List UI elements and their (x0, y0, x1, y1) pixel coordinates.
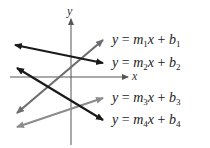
equation-3: y = m3x + b3 (112, 91, 180, 105)
eq-x: x (148, 112, 154, 127)
eq-plus: + (157, 112, 165, 127)
eq-slope: m (133, 32, 143, 47)
equation-1: y = m1x + b1 (112, 33, 180, 47)
eq-slope: m (133, 112, 143, 127)
y-axis-label: y (67, 5, 72, 17)
eq-lhs: y (112, 90, 118, 105)
eq-intercept: b (169, 55, 176, 70)
eq-lhs: y (112, 55, 118, 70)
eq-plus: + (157, 55, 165, 70)
eq-lhs: y (112, 32, 118, 47)
eq-intercept-subscript: 2 (176, 62, 181, 72)
equation-4: y = m4x + b4 (112, 113, 180, 127)
eq-slope: m (133, 90, 143, 105)
eq-plus: + (157, 90, 165, 105)
eq-intercept-subscript: 3 (176, 97, 181, 107)
eq-equals: = (122, 32, 130, 47)
eq-lhs: y (112, 112, 118, 127)
eq-intercept-subscript: 4 (176, 119, 181, 129)
x-axis-label: x (132, 70, 137, 82)
eq-plus: + (157, 32, 165, 47)
equation-2: y = m2x + b2 (112, 56, 180, 70)
line-2 (15, 45, 103, 63)
eq-x: x (148, 90, 154, 105)
eq-x: x (148, 55, 154, 70)
eq-slope: m (133, 55, 143, 70)
eq-intercept-subscript: 1 (176, 39, 181, 49)
eq-equals: = (122, 112, 130, 127)
eq-equals: = (122, 90, 130, 105)
eq-intercept: b (169, 112, 176, 127)
eq-x: x (148, 32, 154, 47)
eq-equals: = (122, 55, 130, 70)
eq-intercept: b (169, 32, 176, 47)
eq-intercept: b (169, 90, 176, 105)
